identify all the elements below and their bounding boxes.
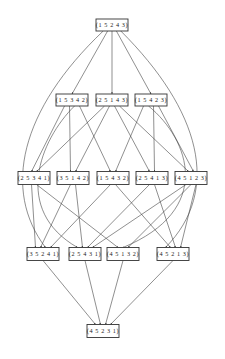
graph-node: (4 5 2 1 3) xyxy=(157,248,189,261)
hasse-diagram: (1 5 2 4 3)(1 5 3 4 2)(2 5 1 4 3)(1 5 4 … xyxy=(0,0,225,359)
graph-node: (4 5 2 3 1) xyxy=(87,325,119,338)
node-label: (4 5 2 3 1) xyxy=(87,327,119,335)
edge-arrow xyxy=(51,185,111,248)
edge-arrow xyxy=(37,185,119,248)
graph-node: (2 5 3 4 1) xyxy=(18,172,50,185)
graph-node: (2 5 1 4 3) xyxy=(96,94,128,106)
edge-arrow xyxy=(181,185,197,248)
graph-node: (3 5 2 4 1) xyxy=(27,248,59,261)
graph-node: (1 5 4 3 2) xyxy=(97,172,129,185)
node-label: (1 5 4 2 3) xyxy=(135,96,167,104)
edge-arrow xyxy=(88,185,150,248)
node-label: (3 5 1 4 2) xyxy=(57,174,89,182)
graph-node: (3 5 1 4 2) xyxy=(57,172,89,185)
node-label: (4 5 2 1 3) xyxy=(157,250,189,258)
node-label: (2 5 4 3 1) xyxy=(69,250,101,258)
node-label: (2 5 3 4 1) xyxy=(18,174,50,182)
edge-arrow xyxy=(32,185,36,248)
edge-arrow xyxy=(41,185,71,248)
node-label: (1 5 3 4 2) xyxy=(56,96,88,104)
nodes-group: (1 5 2 4 3)(1 5 3 4 2)(2 5 1 4 3)(1 5 4 … xyxy=(18,19,207,338)
edge-arrow xyxy=(23,31,104,248)
edge-arrow xyxy=(32,106,65,172)
edge-arrow xyxy=(93,185,187,248)
edge-arrow xyxy=(116,31,151,94)
graph-node: (1 5 3 4 2) xyxy=(56,94,88,106)
edge-arrow xyxy=(76,185,83,248)
edge-arrow xyxy=(106,261,124,325)
graph-node: (1 5 2 4 3) xyxy=(96,19,128,31)
node-label: (1 5 2 4 3) xyxy=(96,21,128,29)
edge-arrow xyxy=(111,261,174,325)
graph-node: (4 5 1 2 3) xyxy=(175,172,207,185)
edge-arrow xyxy=(72,31,108,94)
node-label: (1 5 4 3 2) xyxy=(97,174,129,182)
node-label: (4 5 1 2 3) xyxy=(175,174,207,182)
node-label: (2 5 4 1 3) xyxy=(136,174,168,182)
graph-node: (2 5 4 3 1) xyxy=(69,248,101,261)
graph-node: (4 5 1 3 2) xyxy=(107,248,139,261)
graph-node: (2 5 4 1 3) xyxy=(136,172,168,185)
graph-node: (1 5 4 2 3) xyxy=(135,94,167,106)
node-label: (2 5 1 4 3) xyxy=(96,96,128,104)
node-label: (4 5 1 3 2) xyxy=(107,250,139,258)
node-label: (3 5 2 4 1) xyxy=(27,250,59,258)
edge-arrow xyxy=(76,106,110,172)
edge-arrow xyxy=(80,106,111,172)
edge-arrow xyxy=(128,185,191,248)
